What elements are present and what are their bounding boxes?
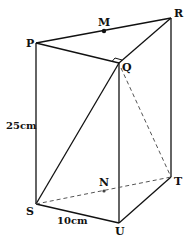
point-N xyxy=(102,189,105,192)
label-T: T xyxy=(174,175,183,188)
edge-PQ xyxy=(36,43,119,63)
hidden-diagonal-QT xyxy=(121,68,171,177)
label-N: N xyxy=(99,176,109,189)
label-M: M xyxy=(98,16,110,29)
height-dimension: 25cm xyxy=(6,120,37,131)
label-P: P xyxy=(26,37,34,50)
label-R: R xyxy=(174,7,184,20)
point-M xyxy=(102,29,106,33)
edge-QR xyxy=(119,18,171,63)
edge-UT xyxy=(119,177,171,223)
label-Q: Q xyxy=(122,61,132,74)
label-S: S xyxy=(26,205,34,218)
label-U: U xyxy=(115,225,125,236)
prism-diagram: P M R Q S N T U 25cm 10cm xyxy=(0,0,192,236)
base-dimension: 10cm xyxy=(57,215,88,226)
